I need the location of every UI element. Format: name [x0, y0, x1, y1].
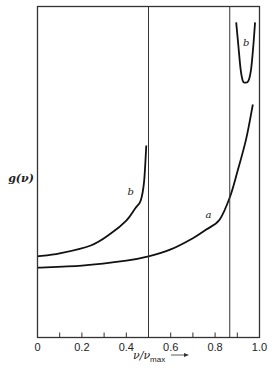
- axes: [38, 7, 260, 338]
- x-tick-label: 1.0: [252, 341, 267, 353]
- arrow-right-icon: [184, 353, 189, 357]
- curve-a: [38, 104, 253, 267]
- curve-b: [38, 146, 147, 257]
- x-tick-label: 0: [34, 341, 40, 353]
- x-tick-label: 0.8: [207, 341, 222, 353]
- chart: 00.20.40.60.81.0abbg(ν)ν/νmax: [0, 0, 272, 370]
- x-axis-label: ν/νmax: [133, 349, 165, 364]
- x-axis-label-subscript: max: [150, 355, 165, 364]
- x-tick-label: 0.6: [163, 341, 178, 353]
- curve-label-b: b: [243, 37, 249, 48]
- curve-label-b: b: [128, 186, 134, 197]
- x-tick-label: 0.2: [74, 341, 89, 353]
- curve-label-a: a: [205, 209, 211, 220]
- curve-b: [236, 22, 255, 82]
- plot-area: [38, 22, 256, 267]
- x-tick-label: 0.4: [119, 341, 134, 353]
- y-axis-label: g(ν): [8, 172, 34, 185]
